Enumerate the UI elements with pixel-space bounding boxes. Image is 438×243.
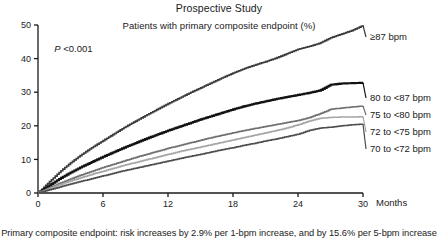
x-tick-label: 0 [35,199,40,209]
y-tick-label: 50 [21,20,31,30]
series-label-leader [363,25,366,37]
pvalue-annotation: P <0.001 [54,43,92,54]
series-line [38,124,363,193]
footnote-container: Primary composite endpoint: risk increas… [0,222,438,240]
figure-container: Prospective Study Patients with primary … [0,0,438,243]
series-label: 80 to <87 bpm [370,92,431,103]
footnote-text: Primary composite endpoint: risk increas… [1,228,437,238]
y-tick-label: 0 [26,188,31,198]
survival-curve-plot: 010203040500612182430Months ≥87 bpm80 to… [0,0,438,243]
x-axis-title: Months [376,197,407,208]
series-label: 70 to <72 bpm [370,143,431,154]
x-tick-label: 6 [100,199,105,209]
series-label: 75 to <80 bpm [370,109,431,120]
series-label: 72 to <75 bpm [370,126,431,137]
series-label-leader [363,106,366,115]
x-tick-label: 18 [228,199,238,209]
y-tick-label: 20 [21,121,31,131]
y-tick-label: 30 [21,87,31,97]
series-label-leader [363,83,366,98]
x-tick-label: 30 [358,199,368,209]
y-tick-label: 40 [21,54,31,64]
x-tick-label: 24 [293,199,303,209]
annotation-layer: P <0.001 [54,43,92,54]
x-tick-label: 12 [163,199,173,209]
series-label-layer: ≥87 bpm80 to <87 bpm75 to <80 bpm72 to <… [363,25,431,154]
series-label: ≥87 bpm [370,31,407,42]
y-tick-label: 10 [21,155,31,165]
